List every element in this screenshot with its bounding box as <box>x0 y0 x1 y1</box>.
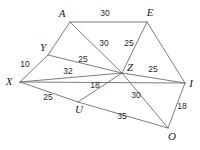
length-label-uo: 35 <box>117 111 127 121</box>
geometry-diagram-canvas: 303025251032252518303518 AEYZXIUO <box>0 0 200 150</box>
segment-xi <box>20 82 185 83</box>
vertex-label-o: O <box>168 130 176 142</box>
length-label-zi: 25 <box>148 64 158 74</box>
length-label-io: 18 <box>177 101 187 111</box>
segment-uz <box>78 73 122 102</box>
vertex-label-e: E <box>146 6 154 18</box>
length-label-ez: 25 <box>124 38 134 48</box>
length-label-uz: 18 <box>90 80 100 90</box>
geometry-figure: 303025251032252518303518 AEYZXIUO <box>0 0 200 150</box>
segment-zo <box>122 73 168 128</box>
length-label-xy: 10 <box>20 59 30 69</box>
length-label-xu: 25 <box>43 92 53 102</box>
segment-az <box>70 22 122 73</box>
segment-zi <box>122 73 185 83</box>
vertex-label-y: Y <box>40 41 48 53</box>
length-label-az: 30 <box>99 38 109 48</box>
vertex-label-a: A <box>58 7 66 19</box>
length-label-xz: 32 <box>63 66 73 76</box>
length-label-yz: 25 <box>78 54 88 64</box>
vertex-label-z: Z <box>127 61 134 73</box>
length-label-zo: 30 <box>131 90 141 100</box>
segment-ay <box>48 22 70 55</box>
edge-labels-layer: 303025251032252518303518 <box>20 8 187 121</box>
vertex-label-x: X <box>5 75 14 87</box>
vertex-labels-layer: AEYZXIUO <box>5 6 195 142</box>
length-label-ae: 30 <box>100 8 110 18</box>
vertex-label-u: U <box>75 103 84 115</box>
vertex-label-i: I <box>188 77 194 89</box>
